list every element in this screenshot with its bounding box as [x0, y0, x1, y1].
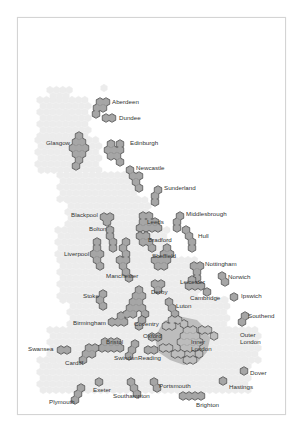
hex-fill	[192, 392, 198, 399]
hex-fill	[220, 377, 226, 384]
label-swindon: Swindon	[114, 354, 138, 361]
label-nottingham: Nottingham	[205, 260, 237, 267]
hex-fill	[155, 262, 161, 269]
hex-fill	[136, 184, 142, 191]
land-hex	[213, 386, 219, 393]
label-ipswich: Ipswich	[241, 292, 262, 299]
hex-fill	[174, 224, 180, 231]
label-luton: Luton	[176, 302, 192, 309]
label-edinburgh: Edinburgh	[130, 139, 159, 146]
label-blackpool: Blackpool	[71, 211, 98, 218]
hex-fill	[198, 392, 204, 399]
hex-fill	[143, 224, 149, 231]
hex-fill	[100, 104, 106, 111]
hex-fill	[151, 346, 157, 353]
hex-fill	[97, 262, 103, 269]
hex-fill	[180, 392, 186, 399]
hex-fill	[163, 322, 169, 329]
land-hex	[222, 296, 228, 303]
hex-fill	[211, 332, 217, 339]
label-newcastle: Newcastle	[136, 164, 165, 171]
hex-fill	[103, 114, 109, 121]
city-hull[interactable]	[182, 226, 196, 253]
label-norwich: Norwich	[228, 273, 251, 280]
hex-fill	[186, 392, 192, 399]
label-swansea: Swansea	[28, 345, 54, 352]
hex-fill	[169, 322, 175, 329]
hex-fill	[109, 114, 115, 121]
hex-fill	[93, 110, 99, 117]
label-leicester: Leicester	[180, 278, 205, 285]
city-ipswich[interactable]	[230, 293, 238, 302]
hex-fill	[137, 224, 143, 231]
label-bolton: Bolton	[89, 225, 107, 232]
hex-fill	[152, 198, 158, 205]
hex-fill	[189, 244, 195, 251]
hex-fill	[149, 224, 155, 231]
label-cambridge: Cambridge	[190, 294, 221, 301]
hex-fill	[175, 316, 181, 323]
land-hex	[53, 386, 59, 393]
land-hex	[66, 386, 72, 393]
hex-fill	[89, 350, 95, 357]
label-portsmouth: Portsmouth	[159, 382, 191, 389]
hex-fill	[124, 310, 130, 317]
hex-fill	[172, 350, 178, 357]
hex-fill	[100, 302, 106, 309]
hex-fill	[108, 152, 114, 159]
hex-fill	[149, 244, 155, 251]
hex-fill	[96, 378, 102, 385]
hex-fill	[160, 344, 166, 351]
land-hex	[59, 386, 65, 393]
land-hex	[255, 356, 261, 363]
city-sunderland[interactable]	[151, 186, 162, 207]
land-hex	[206, 386, 212, 393]
hex-fill	[111, 344, 117, 351]
label-hull: Hull	[198, 232, 209, 239]
city-hastings[interactable]	[219, 377, 227, 386]
city-dundee[interactable]	[102, 114, 116, 123]
land-hex	[44, 166, 50, 173]
land-hex	[38, 166, 44, 173]
hex-fill	[184, 356, 190, 363]
hex-fill	[145, 346, 151, 353]
label-cardiff: Cardiff	[65, 359, 83, 366]
label-leeds: Leeds	[147, 218, 164, 225]
label-brighton: Brighton	[196, 401, 220, 408]
label-southend: Southend	[248, 312, 275, 319]
land-hex	[63, 109, 69, 116]
land-hex	[101, 84, 107, 91]
label-outer-london: Outer	[240, 331, 255, 338]
hex-fill	[239, 318, 245, 325]
label-coventry: Coventry	[134, 320, 160, 327]
hex-fill	[58, 346, 64, 353]
land-hex	[40, 386, 46, 393]
label-birmingham: Birmingham	[73, 319, 106, 326]
label-aberdeen: Aberdeen	[112, 98, 139, 105]
hex-fill	[73, 162, 79, 169]
hex-fill	[99, 344, 105, 351]
hex-fill	[130, 310, 136, 317]
land-hex	[248, 356, 254, 363]
label-inner-london: Inner	[191, 338, 205, 345]
hex-fill	[110, 244, 116, 251]
label-dover: Dover	[250, 369, 267, 376]
label-hastings: Hastings	[229, 383, 253, 390]
land-hex	[219, 386, 225, 393]
land-hex	[46, 386, 52, 393]
hex-fill	[199, 326, 205, 333]
uk-hex-map[interactable]: AberdeenDundeeGlasgowEdinburghNewcastleS…	[0, 0, 299, 429]
land-hex	[57, 195, 63, 202]
label-oxford: Oxford	[143, 332, 162, 339]
label-bradford: Bradford	[148, 236, 172, 243]
city-dover[interactable]	[240, 367, 248, 376]
city-edinburgh[interactable]	[104, 140, 124, 167]
label-inner-london: London	[191, 345, 212, 352]
land-hex	[60, 296, 66, 303]
hex-fill	[181, 320, 187, 327]
hex-fill	[161, 262, 167, 269]
label-outer-london: London	[240, 338, 261, 345]
label-sheffield: Sheffield	[152, 252, 177, 259]
label-sunderland: Sunderland	[164, 184, 196, 191]
hex-fill	[231, 293, 237, 300]
